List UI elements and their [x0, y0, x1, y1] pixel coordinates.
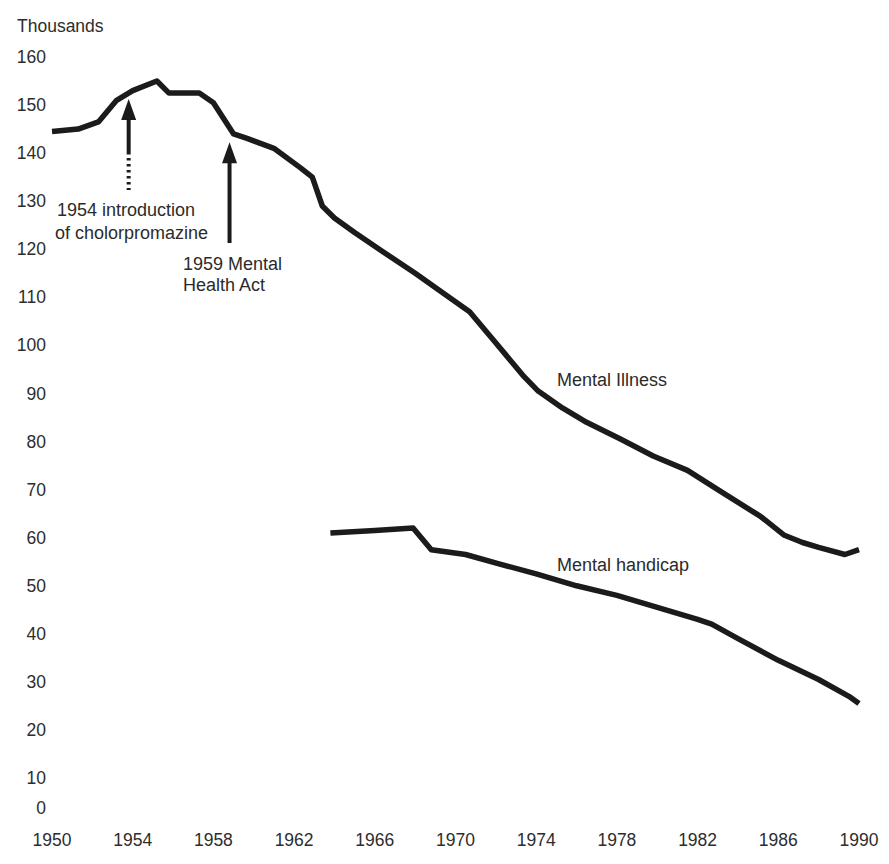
- y-tick-label-0: 0: [36, 798, 46, 818]
- mental-hospital-beds-chart: Thousands 160150140130120110100908070605…: [0, 0, 889, 864]
- y-tick-label-140: 140: [17, 143, 46, 163]
- x-tick-label-1986: 1986: [759, 830, 798, 850]
- y-tick-label-120: 120: [17, 239, 46, 259]
- y-tick-label-10: 10: [27, 768, 47, 788]
- y-axis-title: Thousands: [17, 16, 104, 36]
- y-tick-label-150: 150: [17, 95, 46, 115]
- y-tick-label-80: 80: [27, 432, 47, 452]
- annotation-1959-line2: Health Act: [183, 275, 265, 295]
- y-tick-label-70: 70: [27, 480, 47, 500]
- annotation-1954-line1: 1954 introduction: [57, 200, 195, 220]
- y-tick-label-20: 20: [27, 720, 47, 740]
- annotation-arrowhead-2: [222, 142, 237, 163]
- series-label-mental-handicap: Mental handicap: [557, 555, 689, 575]
- annotation-arrows: [121, 99, 237, 243]
- y-tick-label-60: 60: [27, 528, 47, 548]
- x-tick-label-1978: 1978: [597, 830, 636, 850]
- y-tick-label-50: 50: [27, 576, 47, 596]
- data-lines: [52, 81, 859, 704]
- x-tick-label-1974: 1974: [517, 830, 556, 850]
- annotation-1954-line2: of cholorpromazine: [55, 223, 208, 243]
- x-tick-label-1962: 1962: [275, 830, 314, 850]
- y-tick-label-130: 130: [17, 191, 46, 211]
- y-tick-label-110: 110: [18, 287, 46, 307]
- mental-illness-line: [52, 81, 859, 555]
- y-tick-label-100: 100: [17, 335, 46, 355]
- y-tick-label-90: 90: [27, 384, 47, 404]
- x-tick-label-1982: 1982: [678, 830, 717, 850]
- x-tick-label-1954: 1954: [113, 830, 152, 850]
- y-tick-label-30: 30: [27, 672, 47, 692]
- x-tick-label-1950: 1950: [33, 830, 72, 850]
- y-axis-tick-labels: 1601501401301201101009080706050403020100: [17, 47, 46, 818]
- annotation-1959-line1: 1959 Mental: [183, 254, 282, 274]
- x-tick-label-1990: 1990: [840, 830, 879, 850]
- x-tick-label-1966: 1966: [355, 830, 394, 850]
- y-tick-label-160: 160: [17, 47, 46, 67]
- series-label-mental-illness: Mental Illness: [557, 370, 667, 390]
- scanned-chart-page: Thousands 160150140130120110100908070605…: [0, 0, 889, 864]
- x-tick-label-1970: 1970: [436, 830, 475, 850]
- x-tick-label-1958: 1958: [194, 830, 233, 850]
- y-tick-label-40: 40: [27, 624, 47, 644]
- x-axis-tick-labels: 1950195419581962196619701974197819821986…: [33, 830, 879, 850]
- annotation-arrowhead-1: [121, 99, 136, 120]
